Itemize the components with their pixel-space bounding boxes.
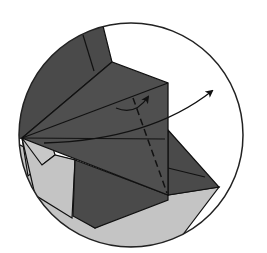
origami-diagram [0, 0, 267, 253]
magnified-detail [0, 0, 267, 253]
diagram-svg [0, 0, 267, 253]
